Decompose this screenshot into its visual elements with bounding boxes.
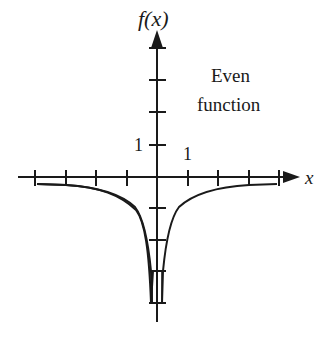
curve-left-branch xyxy=(37,184,153,303)
x-tick-label-1: 1 xyxy=(183,144,192,164)
y-tick-label-1: 1 xyxy=(134,135,143,155)
x-axis-label: x xyxy=(304,167,314,188)
curve-left xyxy=(37,184,152,303)
even-function-graph: f(x) x 1 1 Even function xyxy=(0,0,327,338)
curve-right xyxy=(162,184,277,303)
y-axis-arrow-icon xyxy=(151,30,163,48)
annotation-line-2: function xyxy=(197,94,261,115)
annotation-line-1: Even xyxy=(211,65,251,86)
x-axis-arrow-icon xyxy=(283,171,300,183)
y-axis-label: f(x) xyxy=(138,6,169,31)
